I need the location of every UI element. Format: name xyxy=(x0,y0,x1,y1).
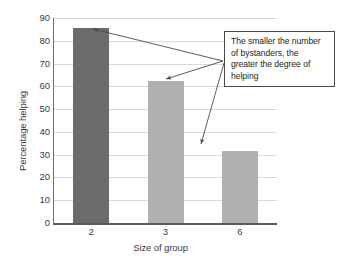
y-axis-line xyxy=(53,18,54,223)
x-tick-2: 2 xyxy=(71,226,111,237)
x-tick-6: 6 xyxy=(220,226,260,237)
bar-chart-figure: Percentage helping Size of group 90 80 7… xyxy=(0,0,351,263)
bar-group-3[interactable] xyxy=(148,81,184,223)
callout-line-2: of bystanders, the xyxy=(231,48,298,58)
x-axis-line xyxy=(53,223,277,225)
bar-group-6[interactable] xyxy=(222,151,258,223)
y-tick-70: 70 xyxy=(28,58,50,69)
y-tick-60: 60 xyxy=(28,80,50,91)
y-tick-80: 80 xyxy=(28,35,50,46)
y-tick-90: 90 xyxy=(28,12,50,23)
y-tick-40: 40 xyxy=(28,126,50,137)
x-axis-title: Size of group xyxy=(44,242,277,253)
y-tick-30: 30 xyxy=(28,149,50,160)
x-tick-3: 3 xyxy=(146,226,186,237)
annotation-textbox: The smaller the number of bystanders, th… xyxy=(224,31,335,87)
callout-line-1: The smaller the number xyxy=(231,36,321,46)
bar-group-2[interactable] xyxy=(73,28,109,223)
y-tick-10: 10 xyxy=(28,194,50,205)
y-tick-20: 20 xyxy=(28,171,50,182)
y-tick-0: 0 xyxy=(28,217,50,228)
callout-line-4: helping xyxy=(231,71,258,81)
callout-line-3: greater the degree of xyxy=(231,59,310,69)
y-axis-tick-labels: 90 80 70 60 50 40 30 20 10 0 xyxy=(26,18,50,223)
gridline-90 xyxy=(54,18,277,19)
y-tick-50: 50 xyxy=(28,103,50,114)
